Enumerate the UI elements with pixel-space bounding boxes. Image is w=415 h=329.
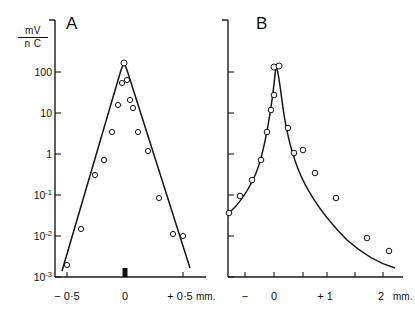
y-unit-denominator: n C: [18, 38, 48, 50]
panel-b-plot-area: [205, 0, 415, 329]
figure-root: A mV n C 100 10 1 10-1 10-2 10-3 − 0·5 0…: [0, 0, 415, 329]
panel-b-xtick-zero: 0: [271, 290, 277, 302]
y-unit-numerator: mV: [18, 26, 48, 38]
panel-b-xtick-2: 2: [378, 290, 384, 302]
panel-a-ytick-10: 10: [18, 107, 52, 119]
panel-a-y-axis-unit-label: mV n C: [18, 26, 48, 49]
panel-a-data-markers: [64, 60, 185, 268]
panel-b-xtick-plus-1: + 1: [317, 290, 333, 302]
panel-a-xtick-plus-0-5: + 0·5: [167, 290, 192, 302]
panel-b-x-tickmarks: [245, 272, 383, 277]
panel-b-y-tickmarks: [228, 72, 234, 277]
panel-a-xtick-minus-0-5: − 0·5: [54, 290, 79, 302]
panel-b: B − 0 + 1 2 mm.: [205, 0, 415, 329]
panel-a: A mV n C 100 10 1 10-1 10-2 10-3 − 0·5 0…: [0, 0, 210, 329]
panel-a-label: A: [66, 14, 78, 34]
panel-a-ytick-1e-1: 10-1: [12, 189, 52, 201]
panel-a-xtick-zero: 0: [122, 290, 128, 302]
panel-a-ytick-1e-2: 10-2: [12, 230, 52, 242]
panel-a-ytick-1: 1: [18, 148, 52, 160]
panel-b-data-markers: [226, 63, 392, 254]
panel-b-x-unit-label: mm.: [393, 291, 412, 302]
panel-a-origin-marker: [123, 268, 128, 277]
panel-a-fit-curve: [62, 63, 190, 271]
panel-b-label: B: [256, 14, 268, 34]
panel-b-xtick-minus: −: [242, 290, 248, 302]
panel-a-ytick-100: 100: [18, 66, 52, 78]
panel-a-y-tickmarks: [55, 72, 61, 277]
panel-a-ytick-1e-3: 10-3: [12, 271, 52, 283]
